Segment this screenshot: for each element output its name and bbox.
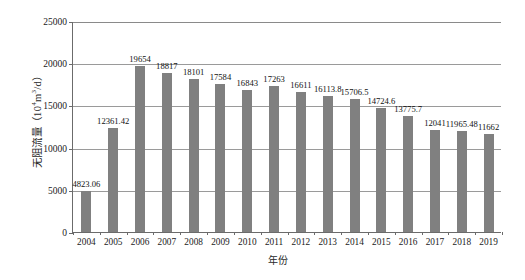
bar-slot-2013: 16113.82013 [314,22,341,232]
x-tick-label-2018: 2018 [452,237,471,247]
x-tick-mark-2 [127,232,128,235]
bar-2006[interactable] [135,66,145,232]
x-tick-label-2015: 2015 [372,237,391,247]
x-tick-mark-9 [314,232,315,235]
bar-value-label-2009: 17584 [210,72,231,82]
x-tick-label-2016: 2016 [399,237,418,247]
bar-2014[interactable] [350,99,360,232]
x-tick-label-2004: 2004 [77,237,96,247]
bar-value-label-2011: 17263 [263,74,284,84]
plot-area: 0500010000150002000025000 4823.062004123… [72,22,501,233]
y-tick-label-0: 0 [62,228,67,238]
x-tick-label-2006: 2006 [131,237,150,247]
bar-slot-2015: 14724.62015 [368,22,395,232]
bar-slot-2011: 172632011 [261,22,288,232]
x-tick-mark-5 [207,232,208,235]
bar-2011[interactable] [269,86,279,232]
bar-value-label-2015: 14724.6 [367,96,395,106]
x-tick-mark-15 [475,232,476,235]
bar-value-label-2018: 11965.48 [446,119,478,129]
y-axis-title: 无阻流量（104m3/d） [29,40,44,200]
bar-value-label-2019: 11662 [478,122,499,132]
bar-2013[interactable] [323,96,333,232]
x-axis-title: 年份 [248,252,308,267]
x-tick-label-2014: 2014 [345,237,364,247]
bar-slot-2018: 11965.482018 [448,22,475,232]
x-tick-mark-12 [395,232,396,235]
x-tick-label-2010: 2010 [238,237,257,247]
bar-value-label-2010: 16843 [237,78,258,88]
bar-2005[interactable] [108,128,118,232]
x-tick-mark-7 [261,232,262,235]
bar-2016[interactable] [403,116,413,232]
bar-2009[interactable] [215,84,225,232]
bar-slot-2019: 116622019 [475,22,502,232]
bar-value-label-2012: 16611 [290,80,311,90]
bar-value-label-2016: 13775.7 [394,104,422,114]
bar-slot-2006: 196542006 [127,22,154,232]
x-tick-mark-8 [288,232,289,235]
bar-2019[interactable] [484,134,494,232]
bar-slot-2007: 188172007 [153,22,180,232]
x-tick-label-2005: 2005 [104,237,123,247]
x-tick-label-2013: 2013 [318,237,337,247]
bar-slot-2004: 4823.062004 [73,22,100,232]
bar-2017[interactable] [430,130,440,232]
bar-value-label-2008: 18101 [183,67,204,77]
y-axis-title-text-part3: /d） [32,71,43,90]
y-tick-label-15000: 15000 [43,101,67,111]
bar-2015[interactable] [376,108,386,232]
x-tick-label-2011: 2011 [265,237,283,247]
x-tick-mark-1 [100,232,101,235]
x-tick-mark-11 [368,232,369,235]
x-tick-mark-6 [234,232,235,235]
y-axis-title-text-part1: 无阻流量（10 [32,106,43,169]
x-tick-mark-10 [341,232,342,235]
bar-2012[interactable] [296,92,306,232]
bar-value-label-2006: 19654 [129,54,150,64]
x-tick-label-2009: 2009 [211,237,230,247]
bar-slot-2014: 15706.52014 [341,22,368,232]
x-tick-label-2007: 2007 [158,237,177,247]
bar-value-label-2005: 12361.42 [97,116,129,126]
x-tick-mark-3 [153,232,154,235]
bar-slot-2009: 175842009 [207,22,234,232]
bar-slot-2016: 13775.72016 [395,22,422,232]
bar-2018[interactable] [457,131,467,232]
bar-slot-2008: 181012008 [180,22,207,232]
x-tick-label-2019: 2019 [479,237,498,247]
x-tick-label-2008: 2008 [184,237,203,247]
x-tick-label-2017: 2017 [426,237,445,247]
bar-slot-2012: 166112012 [288,22,315,232]
y-tick-label-25000: 25000 [43,17,67,27]
bar-2010[interactable] [242,90,252,232]
x-tick-mark-14 [448,232,449,235]
y-tick-label-5000: 5000 [48,186,67,196]
x-tick-mark-0 [73,232,74,235]
bar-value-label-2007: 18817 [156,61,177,71]
y-tick-label-10000: 10000 [43,144,67,154]
y-axis-title-exponent-3: 3 [30,90,38,94]
y-axis-title-exponent-4: 4 [30,102,38,106]
bars-group: 4823.06200412361.42200519654200618817200… [73,22,501,232]
bar-2004[interactable] [81,191,91,232]
x-tick-mark-16 [502,232,503,235]
bar-2007[interactable] [162,73,172,232]
bar-value-label-2013: 16113.8 [314,84,342,94]
bar-chart: 无阻流量（104m3/d） 0500010000150002000025000 … [0,0,525,280]
x-tick-label-2012: 2012 [292,237,311,247]
bar-value-label-2004: 4823.06 [72,179,100,189]
bar-slot-2010: 168432010 [234,22,261,232]
bar-slot-2005: 12361.422005 [100,22,127,232]
y-tick-label-20000: 20000 [43,59,67,69]
bar-2008[interactable] [189,79,199,232]
x-tick-mark-13 [422,232,423,235]
x-tick-mark-4 [180,232,181,235]
bar-slot-2017: 120412017 [422,22,449,232]
bar-value-label-2014: 15706.5 [341,87,369,97]
y-axis-title-text-part2: m [32,94,43,102]
bar-value-label-2017: 12041 [424,118,445,128]
